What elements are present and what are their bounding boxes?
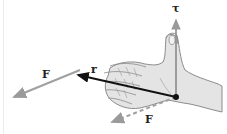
torque-diagram: τ r F F xyxy=(0,0,227,134)
torque-label: τ xyxy=(172,3,179,14)
hand-illustration xyxy=(104,33,222,112)
position-label: r xyxy=(91,64,97,75)
force-translated-label: F xyxy=(145,114,153,125)
diagram-canvas xyxy=(0,0,227,134)
hand-palm xyxy=(105,34,222,112)
force-applied-label: F xyxy=(42,69,50,80)
pivot-point xyxy=(173,94,179,100)
thumbnail xyxy=(169,36,175,45)
